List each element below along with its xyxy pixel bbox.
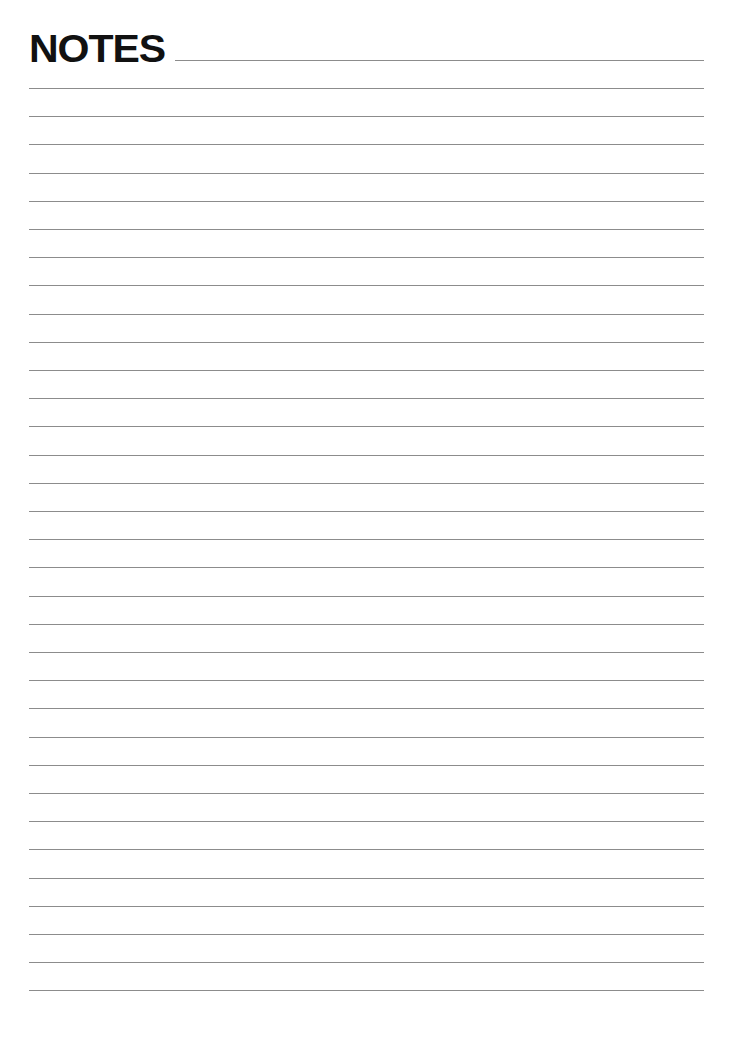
ruled-line — [29, 652, 704, 653]
ruled-line — [29, 342, 704, 343]
ruled-line — [29, 737, 704, 738]
ruled-line — [29, 314, 704, 315]
ruled-line — [29, 708, 704, 709]
ruled-line — [29, 511, 704, 512]
ruled-line — [29, 765, 704, 766]
ruled-line — [29, 567, 704, 568]
ruled-line — [29, 455, 704, 456]
ruled-line — [29, 116, 704, 117]
ruled-line — [29, 849, 704, 850]
ruled-line — [29, 144, 704, 145]
ruled-line — [29, 962, 704, 963]
ruled-line — [29, 934, 704, 935]
ruled-line — [29, 229, 704, 230]
ruled-line — [29, 201, 704, 202]
ruled-line — [29, 906, 704, 907]
ruled-line — [29, 483, 704, 484]
header-rule-line — [175, 60, 704, 61]
page-title: NOTES — [29, 30, 165, 68]
ruled-line — [29, 596, 704, 597]
ruled-line — [29, 990, 704, 991]
ruled-line — [29, 878, 704, 879]
ruled-line — [29, 370, 704, 371]
ruled-line — [29, 821, 704, 822]
ruled-line — [29, 680, 704, 681]
ruled-line — [29, 173, 704, 174]
ruled-line — [29, 793, 704, 794]
ruled-line — [29, 88, 704, 89]
ruled-line — [29, 285, 704, 286]
ruled-line — [29, 624, 704, 625]
ruled-line — [29, 398, 704, 399]
ruled-line — [29, 257, 704, 258]
ruled-line — [29, 426, 704, 427]
ruled-line — [29, 539, 704, 540]
